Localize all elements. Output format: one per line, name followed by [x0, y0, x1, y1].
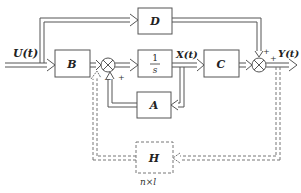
output-feedback-path: [179, 67, 280, 160]
h-dimension-label: n×l: [140, 177, 156, 187]
summing-junction-2: [252, 58, 266, 72]
integrator-denominator: s: [153, 65, 158, 75]
block-d-label: D: [149, 15, 160, 28]
input-label: U(t): [13, 47, 38, 60]
block-c-label: C: [217, 58, 226, 71]
summing-junction-1: [101, 58, 115, 72]
sum2-sign-top: +: [263, 47, 270, 56]
sum1-sign-a: +: [118, 73, 125, 82]
block-b-label: B: [66, 58, 76, 71]
h-feedback-path: [93, 78, 136, 160]
block-h-label: H: [148, 152, 160, 165]
integrator-numerator: 1: [152, 53, 158, 63]
block-diagram: U(t) B + − + 1 s X(t) A D +: [0, 0, 301, 193]
sum2-sign-left: +: [270, 54, 277, 63]
output-label: Y(t): [278, 48, 299, 59]
state-label: X(t): [175, 49, 198, 60]
block-a-label: A: [149, 99, 159, 112]
